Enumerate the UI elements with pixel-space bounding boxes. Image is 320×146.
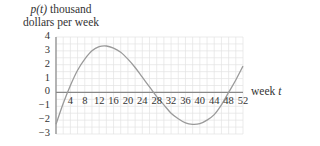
x-tick-label: 32	[166, 95, 177, 106]
x-axis-label: week t	[251, 85, 281, 97]
x-tick-label: 40	[195, 95, 206, 106]
y-tick-label: −2	[36, 113, 50, 124]
x-tick-label: 16	[108, 95, 119, 106]
y-tick-label: −1	[36, 99, 50, 110]
y-tick-label: −3	[36, 127, 50, 138]
y-tick-label: 1	[36, 72, 50, 83]
y-tick-label: 2	[36, 58, 50, 69]
x-tick-label: 12	[94, 95, 105, 106]
y-tick-label: 0	[36, 85, 50, 96]
x-tick-label: 48	[223, 95, 234, 106]
x-tick-label: 4	[68, 95, 73, 106]
x-axis-label-text: week	[251, 85, 278, 97]
x-tick-label: 24	[137, 95, 148, 106]
x-tick-label: 28	[151, 95, 162, 106]
y-tick-label: 4	[36, 30, 50, 41]
x-tick-label: 8	[82, 95, 87, 106]
x-tick-label: 20	[123, 95, 134, 106]
x-tick-label: 44	[209, 95, 220, 106]
x-axis-label-var: t	[278, 85, 281, 97]
y-tick-label: 3	[36, 44, 50, 55]
x-tick-label: 36	[180, 95, 191, 106]
x-tick-label: 52	[238, 95, 249, 106]
